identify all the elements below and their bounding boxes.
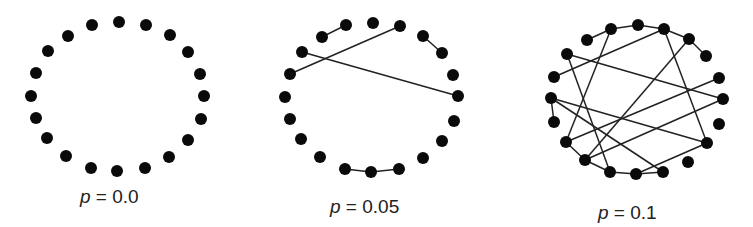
graph-node — [545, 92, 557, 104]
graph-node — [111, 165, 123, 177]
label-value: 0.1 — [630, 202, 656, 223]
graph-node — [139, 162, 151, 174]
label-value: 0.0 — [112, 186, 138, 207]
graph-node — [41, 132, 53, 144]
panel-label-p-0-0: p = 0.0 — [80, 186, 139, 208]
graph-node — [548, 71, 560, 83]
graph-node — [713, 118, 725, 130]
graph-node — [605, 23, 617, 35]
graph-node — [436, 47, 448, 59]
graph-node — [560, 136, 572, 148]
graph-node — [417, 30, 429, 42]
label-variable: p — [598, 202, 609, 223]
graph-node — [394, 20, 406, 32]
graph-node — [284, 68, 296, 80]
panel-p-0-05 — [279, 17, 464, 178]
graph-node — [436, 135, 448, 147]
graph-node — [658, 23, 670, 35]
graph-node — [296, 46, 308, 58]
graph-node — [340, 19, 352, 31]
panel-label-p-0-1: p = 0.1 — [598, 202, 657, 224]
graph-node — [367, 17, 379, 29]
graph-node — [417, 152, 429, 164]
graph-node — [314, 151, 326, 163]
graph-node — [548, 116, 560, 128]
graph-node — [30, 112, 42, 124]
graph-node — [657, 166, 669, 178]
graph-node — [279, 91, 291, 103]
graph-node — [717, 93, 729, 105]
graph-node — [452, 90, 464, 102]
graph-node — [60, 150, 72, 162]
panel-label-p-0-05: p = 0.05 — [330, 196, 399, 218]
graph-node — [339, 163, 351, 175]
graph-node — [604, 166, 616, 178]
label-variable: p — [330, 196, 341, 217]
graph-node — [113, 16, 125, 28]
graph-node — [30, 67, 42, 79]
label-equals: = — [96, 186, 107, 207]
graph-edge — [566, 29, 611, 142]
graph-node — [365, 166, 377, 178]
graph-node — [86, 19, 98, 31]
graph-node — [632, 19, 644, 31]
graph-node — [25, 90, 37, 102]
graph-node — [295, 133, 307, 145]
graph-node — [579, 154, 591, 166]
graph-node — [85, 162, 97, 174]
graph-node — [581, 34, 593, 46]
graph-edge — [302, 52, 458, 96]
graph-node — [164, 29, 176, 41]
graph-edge — [636, 143, 707, 174]
graph-node — [198, 90, 210, 102]
graph-node — [182, 134, 194, 146]
graph-node — [182, 46, 194, 58]
graph-node — [42, 45, 54, 57]
graph-node — [683, 33, 695, 45]
graph-node — [316, 31, 328, 43]
graph-node — [700, 50, 712, 62]
graph-node — [713, 72, 725, 84]
graph-node — [447, 69, 459, 81]
label-value: 0.05 — [362, 196, 399, 217]
graph-node — [195, 113, 207, 125]
graph-node — [630, 168, 642, 180]
graph-node — [163, 151, 175, 163]
label-variable: p — [80, 186, 91, 207]
graph-node — [140, 19, 152, 31]
graph-node — [284, 113, 296, 125]
graph-node — [448, 115, 460, 127]
graph-node — [701, 137, 713, 149]
panel-p-0-1 — [545, 19, 729, 180]
graph-edge — [566, 78, 719, 142]
graph-node — [393, 163, 405, 175]
graph-node — [561, 48, 573, 60]
label-equals: = — [346, 196, 357, 217]
panel-p-0-0 — [25, 16, 210, 177]
graph-node — [682, 156, 694, 168]
graph-node — [194, 68, 206, 80]
graph-node — [62, 30, 74, 42]
label-equals: = — [614, 202, 625, 223]
